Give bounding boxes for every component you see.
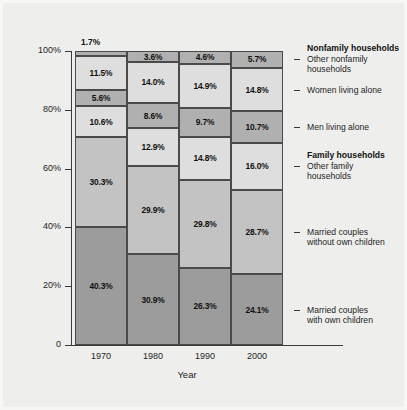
bar-segment[interactable]: 14.8%	[179, 137, 231, 181]
bar-segment-value: 3.6%	[144, 52, 163, 62]
bar-segment[interactable]: 24.1%	[231, 274, 283, 345]
y-tick-mark	[65, 286, 71, 287]
bar-segment[interactable]: 28.7%	[231, 190, 283, 274]
x-tick-label: 1990	[180, 351, 230, 361]
bar-segment-value: 30.9%	[141, 295, 164, 305]
stacked-bar[interactable]: 40.3%30.3%10.6%5.6%11.5%	[75, 51, 127, 345]
bar-segment[interactable]: 5.7%	[231, 51, 283, 68]
legend-heading-nonfamily: Nonfamily households	[307, 43, 399, 53]
bar-segment[interactable]: 8.6%	[127, 103, 179, 128]
bar-segment-value: 10.6%	[89, 117, 112, 127]
bar-segment-value: 30.3%	[89, 177, 112, 187]
bar-segment-value: 28.7%	[245, 227, 268, 237]
bar-segment-value: 14.0%	[141, 77, 164, 87]
legend-item-label: Married couples	[307, 227, 368, 237]
x-axis-title: Year	[71, 369, 303, 380]
bar-segment[interactable]: 29.8%	[179, 180, 231, 268]
y-tick-mark	[65, 51, 71, 52]
bar-segment[interactable]: 26.3%	[179, 268, 231, 345]
legend-item-label: Women living alone	[307, 85, 382, 95]
legend-connector-dash	[294, 59, 300, 60]
bar-segment-value: 14.8%	[193, 153, 216, 163]
x-tick-label: 1970	[76, 351, 126, 361]
bar-segment[interactable]: 14.9%	[179, 64, 231, 108]
y-tick-mark	[65, 169, 71, 170]
bar-segment[interactable]: 40.3%	[75, 227, 127, 345]
bar-segment[interactable]	[75, 51, 127, 56]
bar-segment-value: 9.7%	[196, 117, 215, 127]
y-tick-label: 40%	[11, 221, 61, 231]
bar-segment-value: 5.6%	[92, 93, 111, 103]
bar-segment-value: 40.3%	[89, 281, 112, 291]
legend-item-label-line2: households	[307, 171, 351, 181]
legend-item-label: Men living alone	[307, 122, 369, 132]
legend-connector-dash	[294, 127, 300, 128]
bar-segment[interactable]: 14.0%	[127, 62, 179, 103]
legend-item-label-line2: households	[307, 64, 351, 74]
stacked-bar[interactable]: 30.9%29.9%12.9%8.6%14.0%3.6%	[127, 51, 179, 345]
bar-segment-value: 8.6%	[144, 111, 163, 121]
bar-segment-value: 12.9%	[141, 142, 164, 152]
legend-item-label: Other family	[307, 161, 353, 171]
bar-segment-value: 29.9%	[141, 205, 164, 215]
bar-segment[interactable]: 5.6%	[75, 90, 127, 106]
bar-segment-value: 4.6%	[196, 52, 215, 62]
legend-connector-dash	[294, 232, 300, 233]
y-tick-label: 0	[11, 339, 61, 349]
bar-segment-value: 26.3%	[193, 301, 216, 311]
bar-segment[interactable]: 10.7%	[231, 111, 283, 142]
legend-heading-family: Family households	[307, 150, 385, 160]
bar-segment-value-outside: 1.7%	[81, 37, 100, 47]
legend-connector-dash	[294, 166, 300, 167]
y-tick-mark	[65, 345, 71, 346]
bar-segment-value: 14.8%	[245, 85, 268, 95]
y-tick-label: 60%	[11, 163, 61, 173]
x-tick-label: 2000	[232, 351, 282, 361]
bar-segment-value: 5.7%	[248, 54, 267, 64]
bar-segment[interactable]: 14.8%	[231, 68, 283, 112]
legend-connector-dash	[294, 90, 300, 91]
chart-figure: 100%80%60%40%20%0 % of Households 1.7%40…	[0, 0, 407, 410]
bar-segment[interactable]: 29.9%	[127, 166, 179, 254]
bar-segment-value: 24.1%	[245, 305, 268, 315]
legend-item-label-line2: with own children	[307, 315, 373, 325]
bar-segment[interactable]: 16.0%	[231, 143, 283, 190]
legend-item-label-line2: without own children	[307, 237, 385, 247]
y-tick-mark	[65, 110, 71, 111]
y-tick-label: 80%	[11, 104, 61, 114]
legend: Nonfamily householdsFamily householdsOth…	[294, 43, 406, 353]
bar-segment[interactable]: 3.6%	[127, 51, 179, 62]
bar-segment[interactable]: 10.6%	[75, 106, 127, 137]
y-tick-label: 100%	[11, 45, 61, 55]
legend-connector-dash	[294, 310, 300, 311]
y-tick-label: 20%	[11, 280, 61, 290]
bar-segment-value: 29.8%	[193, 219, 216, 229]
bar-segment[interactable]: 30.9%	[127, 254, 179, 345]
bar-segment[interactable]: 30.3%	[75, 137, 127, 226]
bar-segment[interactable]: 4.6%	[179, 51, 231, 65]
bar-segment-value: 10.7%	[245, 122, 268, 132]
bar-segment[interactable]: 9.7%	[179, 108, 231, 137]
stacked-bar[interactable]: 24.1%28.7%16.0%10.7%14.8%5.7%	[231, 51, 283, 345]
legend-item-label: Other nonfamily	[307, 54, 368, 64]
x-tick-label: 1980	[128, 351, 178, 361]
stacked-bar[interactable]: 26.3%29.8%14.8%9.7%14.9%4.6%	[179, 51, 231, 345]
y-axis-line	[71, 51, 72, 345]
bar-segment[interactable]: 11.5%	[75, 56, 127, 90]
bar-segment-value: 11.5%	[90, 68, 113, 78]
bar-segment-value: 14.9%	[193, 81, 216, 91]
bar-segment-value: 16.0%	[245, 161, 268, 171]
y-tick-mark	[65, 227, 71, 228]
legend-item-label: Married couples	[307, 305, 368, 315]
plot-area: 100%80%60%40%20%0 % of Households 1.7%40…	[71, 51, 292, 345]
bar-segment[interactable]: 12.9%	[127, 128, 179, 166]
